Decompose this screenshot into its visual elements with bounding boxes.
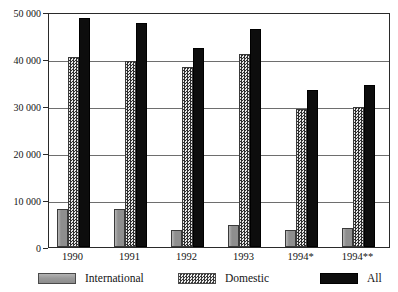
bar-domestic-1993 bbox=[239, 54, 250, 247]
y-axis-tick: 30 000 bbox=[0, 102, 48, 113]
swatch-domestic bbox=[178, 273, 216, 284]
swatch-international bbox=[38, 273, 76, 284]
bar-international-1994s bbox=[285, 230, 296, 247]
legend-item-all[interactable]: All bbox=[320, 268, 382, 288]
bar-domestic-1991 bbox=[125, 61, 136, 247]
x-axis-tick-label: 1990 bbox=[45, 250, 101, 264]
bar-domestic-1994s bbox=[296, 109, 307, 247]
bar-all-1994s bbox=[307, 90, 318, 247]
swatch-all bbox=[320, 273, 358, 284]
bar-all-1992 bbox=[193, 48, 204, 247]
bar-group bbox=[57, 14, 90, 247]
legend-label: Domestic bbox=[225, 272, 269, 285]
bar-all-1994ss bbox=[364, 85, 375, 247]
y-axis-tick: 50 000 bbox=[0, 8, 48, 19]
y-axis-tick: 40 000 bbox=[0, 55, 48, 66]
y-axis: 010 00020 00030 00040 00050 000 bbox=[0, 0, 48, 292]
bar-domestic-1994ss bbox=[353, 107, 364, 247]
bar-international-1990 bbox=[57, 209, 68, 247]
bar-international-1993 bbox=[228, 225, 239, 247]
x-axis-tick-label: 1991 bbox=[102, 250, 158, 264]
bar-group bbox=[228, 14, 261, 247]
y-axis-tick-mark bbox=[43, 248, 48, 249]
bar-domestic-1990 bbox=[68, 57, 79, 247]
bar-domestic-1992 bbox=[182, 67, 193, 247]
x-axis: 19901991199219931994*1994** bbox=[0, 250, 398, 266]
y-axis-tick-label: 20 000 bbox=[14, 149, 42, 160]
y-axis-tick-label: 50 000 bbox=[14, 8, 42, 19]
y-axis-tick: 10 000 bbox=[0, 196, 48, 207]
bar-all-1993 bbox=[250, 29, 261, 247]
legend-label: All bbox=[367, 272, 382, 285]
plot-area bbox=[48, 13, 390, 248]
chart-legend: InternationalDomesticAll bbox=[0, 268, 398, 292]
bar-group bbox=[285, 14, 318, 247]
x-axis-tick-label: 1993 bbox=[216, 250, 272, 264]
y-axis-tick-label: 30 000 bbox=[14, 102, 42, 113]
bars-layer bbox=[49, 14, 389, 247]
bar-all-1990 bbox=[79, 18, 90, 247]
x-axis-tick-label: 1994** bbox=[330, 250, 386, 264]
bar-group bbox=[114, 14, 147, 247]
y-axis-tick-label: 40 000 bbox=[14, 55, 42, 66]
bar-international-1992 bbox=[171, 230, 182, 247]
y-axis-tick: 20 000 bbox=[0, 149, 48, 160]
legend-item-international[interactable]: International bbox=[38, 268, 144, 288]
x-axis-tick-label: 1992 bbox=[159, 250, 215, 264]
legend-item-domestic[interactable]: Domestic bbox=[178, 268, 269, 288]
bar-international-1994ss bbox=[342, 228, 353, 247]
bar-group bbox=[171, 14, 204, 247]
legend-label: International bbox=[85, 272, 144, 285]
bar-group bbox=[342, 14, 375, 247]
y-axis-tick-label: 10 000 bbox=[14, 196, 42, 207]
x-axis-tick-label: 1994* bbox=[273, 250, 329, 264]
bar-chart: 010 00020 00030 00040 00050 000 19901991… bbox=[0, 0, 398, 292]
bar-international-1991 bbox=[114, 209, 125, 247]
bar-all-1991 bbox=[136, 23, 147, 247]
